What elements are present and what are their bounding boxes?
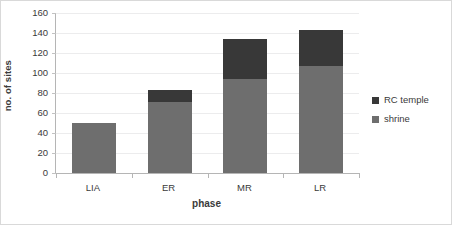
bar-MR[interactable] (223, 39, 267, 173)
gridline-160 (56, 13, 359, 14)
bar-LIA[interactable] (72, 123, 116, 173)
x-tick-label-LR: LR (314, 182, 326, 194)
x-axis-tick-3 (283, 173, 284, 178)
bar-segment-LR-shrine[interactable] (299, 66, 343, 173)
y-axis-tick-160 (52, 13, 56, 14)
y-axis-tick-120 (52, 53, 56, 54)
y-tick-label-0: 0 (43, 168, 48, 178)
bar-segment-ER-shrine[interactable] (148, 102, 192, 173)
y-tick-label-100: 100 (32, 68, 48, 78)
legend-label: RC temple (384, 95, 429, 105)
x-axis-tick-0 (56, 173, 57, 178)
y-axis-tick-80 (52, 93, 56, 94)
x-axis-title: phase (55, 198, 358, 209)
bar-chart: no. of sites 160140120100806040200 LIAER… (0, 0, 452, 225)
y-axis-tick-20 (52, 153, 56, 154)
chart-legend: RC templeshrine (372, 95, 450, 133)
bar-segment-MR-shrine[interactable] (223, 79, 267, 173)
x-tick-label-MR: MR (237, 182, 252, 194)
x-axis-tick-end (359, 173, 360, 178)
y-axis-title: no. of sites (2, 60, 16, 111)
bar-segment-LIA-shrine[interactable] (72, 123, 116, 173)
x-tick-label-ER: ER (162, 182, 175, 194)
y-axis-tick-60 (52, 113, 56, 114)
y-tick-label-80: 80 (37, 88, 48, 98)
y-tick-label-60: 60 (37, 108, 48, 118)
bar-LR[interactable] (299, 30, 343, 173)
x-tick-label-LIA: LIA (86, 182, 100, 194)
legend-swatch-icon (372, 97, 379, 104)
y-axis-tick-140 (52, 33, 56, 34)
y-axis-tick-40 (52, 133, 56, 134)
y-tick-label-120: 120 (32, 48, 48, 58)
y-tick-label-20: 20 (37, 148, 48, 158)
legend-swatch-icon (372, 116, 379, 123)
x-axis-tick-1 (132, 173, 133, 178)
y-tick-label-160: 160 (32, 8, 48, 18)
x-axis-tick-2 (208, 173, 209, 178)
y-axis-tick-100 (52, 73, 56, 74)
legend-item-RC-temple[interactable]: RC temple (372, 95, 450, 105)
x-axis-tick-labels: LIAERMRLR (55, 182, 358, 196)
y-tick-label-40: 40 (37, 128, 48, 138)
plot-area (55, 13, 359, 174)
bar-segment-ER-RC-temple[interactable] (148, 90, 192, 102)
bar-ER[interactable] (148, 90, 192, 173)
y-axis-tick-labels: 160140120100806040200 (18, 0, 52, 225)
y-tick-label-140: 140 (32, 28, 48, 38)
legend-label: shrine (384, 114, 410, 124)
legend-item-shrine[interactable]: shrine (372, 114, 450, 124)
bar-segment-MR-RC-temple[interactable] (223, 39, 267, 79)
bar-segment-LR-RC-temple[interactable] (299, 30, 343, 66)
